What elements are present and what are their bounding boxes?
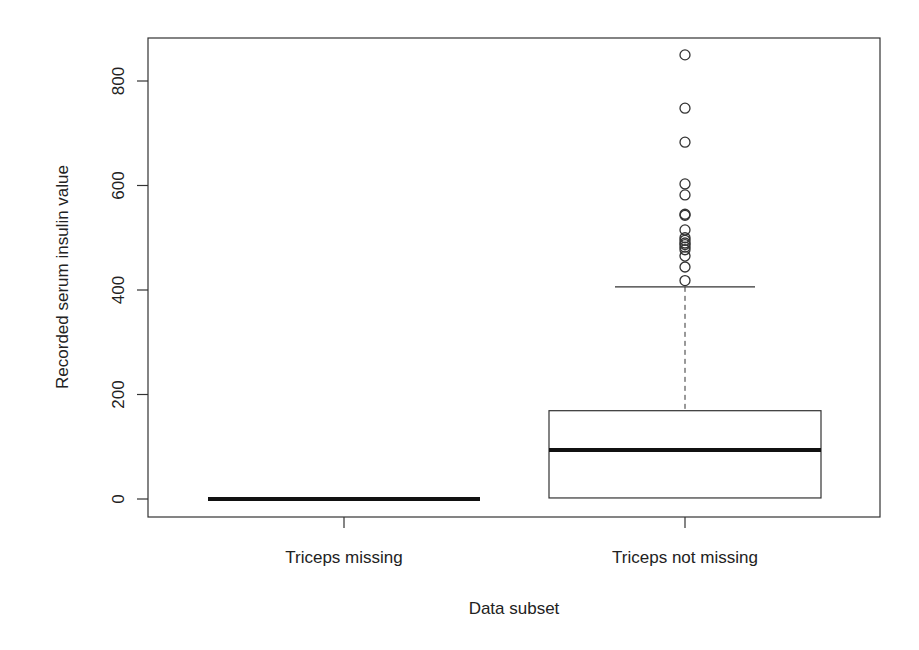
- plot-frame: [148, 38, 880, 517]
- y-tick-label: 600: [109, 171, 128, 199]
- outlier-point: [680, 50, 690, 60]
- outlier-point: [680, 225, 690, 235]
- x-tick-label: Triceps missing: [285, 548, 402, 567]
- boxes: [208, 50, 821, 499]
- y-tick-label: 0: [109, 494, 128, 503]
- y-axis-label: Recorded serum insulin value: [53, 165, 72, 389]
- outlier-point: [680, 179, 690, 189]
- x-axis: Triceps missingTriceps not missing: [285, 517, 758, 567]
- outlier-point: [680, 262, 690, 272]
- outlier-point: [680, 190, 690, 200]
- box-2: [549, 50, 821, 498]
- y-axis: 0200400600800: [109, 67, 148, 504]
- iqr-box: [549, 411, 821, 498]
- y-tick-label: 800: [109, 67, 128, 95]
- outlier-point: [680, 137, 690, 147]
- x-tick-label: Triceps not missing: [612, 548, 758, 567]
- y-tick-label: 200: [109, 380, 128, 408]
- x-axis-label: Data subset: [469, 599, 560, 618]
- y-tick-label: 400: [109, 276, 128, 304]
- outlier-point: [680, 103, 690, 113]
- outlier-point: [680, 276, 690, 286]
- boxplot-chart: 0200400600800 Triceps missingTriceps not…: [0, 0, 919, 650]
